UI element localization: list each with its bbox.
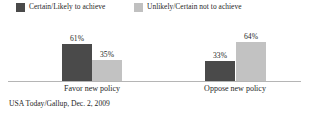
category-label-oppose: Oppose new policy: [190, 84, 280, 94]
bar-value-label: 35%: [92, 50, 122, 59]
bar-favor-certain-likely: [62, 44, 92, 81]
legend-item-label: Unlikely/Certain not to achieve: [147, 2, 242, 12]
chart-legend: Certain/Likely to achieve Unlikely/Certa…: [0, 2, 309, 16]
legend-item-certain-likely: Certain/Likely to achieve: [16, 2, 105, 12]
chart-plot-area: 61% 35% 33% 64%: [0, 20, 309, 82]
chart-baseline-axis: [8, 81, 301, 82]
bar-value-label: 64%: [236, 32, 266, 41]
bar-value-label: 33%: [205, 51, 235, 60]
bar-oppose-certain-likely: [205, 61, 235, 81]
legend-light-swatch-icon: [134, 3, 143, 12]
legend-item-label: Certain/Likely to achieve: [29, 2, 105, 12]
bar-favor-unlikely-certain-not: [92, 60, 122, 81]
chart-source-note: USA Today/Gallup, Dec. 2, 2009: [9, 99, 110, 109]
bar-value-label: 61%: [62, 34, 92, 43]
category-label-favor: Favor new policy: [47, 84, 137, 94]
bar-oppose-unlikely-certain-not: [236, 42, 266, 81]
legend-dark-swatch-icon: [16, 3, 25, 12]
legend-item-unlikely-certain-not: Unlikely/Certain not to achieve: [134, 2, 242, 12]
